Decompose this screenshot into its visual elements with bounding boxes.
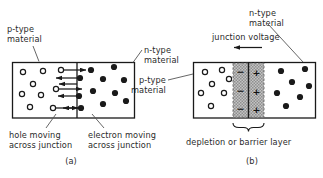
panel-b-leader-n-type [268, 24, 303, 62]
panel-b-diagram: − − − + + + [168, 24, 316, 132]
depletion-negative-sign: − [237, 103, 245, 114]
depletion-negative-sign: − [237, 85, 245, 96]
panel-a-leader-electron-note [92, 114, 104, 128]
panel-a-leader-p-type [33, 46, 39, 62]
panel-b-leader-p-type [168, 74, 193, 80]
depletion-positive-sign: + [253, 67, 261, 78]
panel-b-depletion-brace [233, 123, 264, 132]
panel-a-diagram [13, 46, 143, 128]
panel-a-electron-arrows [56, 78, 79, 108]
panel-a-leader-n-type [133, 50, 142, 63]
panel-a-hole-carriers [19, 67, 63, 110]
panel-a-leader-hole-note [46, 114, 56, 128]
panel-b-electron-carriers [274, 66, 312, 109]
depletion-negative-sign: − [237, 66, 245, 77]
figure-canvas: p-type material n-type material hole mov… [0, 0, 323, 178]
panel-a-electron-carriers [76, 64, 129, 111]
depletion-positive-sign: + [253, 86, 261, 97]
panel-b-hole-carriers [198, 67, 231, 108]
depletion-positive-sign: + [253, 104, 261, 115]
